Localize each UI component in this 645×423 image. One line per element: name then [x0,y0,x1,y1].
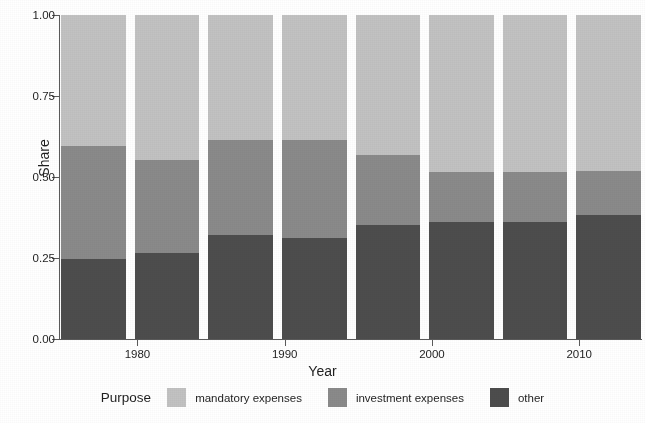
bar-segment-other [135,253,200,339]
bars-container [61,15,641,339]
bar-segment-other [576,215,641,339]
bar-1977 [61,15,126,339]
bar-segment-other [503,222,568,339]
bar-segment-mandatory-expenses [576,15,641,171]
bar-segment-mandatory-expenses [208,15,273,140]
legend-swatch-icon [167,388,186,407]
legend-title: Purpose [101,390,151,405]
y-tick-label: 0.00 [33,333,55,345]
y-tick-label: 1.00 [33,9,55,21]
bar-segment-mandatory-expenses [356,15,421,155]
legend-item-investment-expenses[interactable]: investment expenses [328,388,464,407]
bar-segment-investment-expenses [282,140,347,238]
y-axis-title: Share [36,98,52,218]
x-tick-mark [285,340,286,346]
legend-swatch-icon [328,388,347,407]
bar-2002 [429,15,494,339]
x-tick-mark [579,340,580,346]
bar-1982 [135,15,200,339]
bar-segment-other [282,238,347,339]
legend-item-mandatory-expenses[interactable]: mandatory expenses [167,388,302,407]
bar-segment-other [208,235,273,339]
x-tick-label: 2010 [566,348,592,360]
plot-area [61,15,641,339]
x-tick-label: 1990 [272,348,298,360]
bar-segment-investment-expenses [503,172,568,222]
legend-items: mandatory expensesinvestment expensesoth… [167,388,544,407]
bar-segment-other [356,225,421,339]
bar-segment-mandatory-expenses [135,15,200,160]
bar-1987 [208,15,273,339]
bar-2012 [576,15,641,339]
bar-segment-investment-expenses [135,160,200,253]
y-tick-label: 0.25 [33,252,55,264]
x-tick-label: 2000 [419,348,445,360]
x-tick-mark [137,340,138,346]
bar-segment-investment-expenses [356,155,421,225]
legend-swatch-icon [490,388,509,407]
y-axis-line [59,15,60,340]
legend-item-label: mandatory expenses [195,392,302,404]
bar-segment-mandatory-expenses [61,15,126,146]
x-axis-line [59,339,642,340]
legend-item-other[interactable]: other [490,388,544,407]
bar-segment-investment-expenses [429,172,494,222]
x-tick-mark [432,340,433,346]
bar-2007 [503,15,568,339]
bar-1992 [282,15,347,339]
bar-segment-other [61,259,126,339]
x-axis-title: Year [0,363,645,379]
legend-item-label: investment expenses [356,392,464,404]
bar-segment-mandatory-expenses [503,15,568,172]
bar-segment-investment-expenses [576,171,641,215]
legend-item-label: other [518,392,544,404]
bar-segment-mandatory-expenses [429,15,494,172]
legend: Purpose mandatory expensesinvestment exp… [0,388,645,407]
bar-segment-mandatory-expenses [282,15,347,140]
bar-1997 [356,15,421,339]
stacked-bar-chart: 0.000.250.500.751.00 Share 1980199020002… [0,0,645,423]
bar-segment-investment-expenses [61,146,126,259]
x-tick-label: 1980 [125,348,151,360]
bar-segment-other [429,222,494,339]
bar-segment-investment-expenses [208,140,273,235]
